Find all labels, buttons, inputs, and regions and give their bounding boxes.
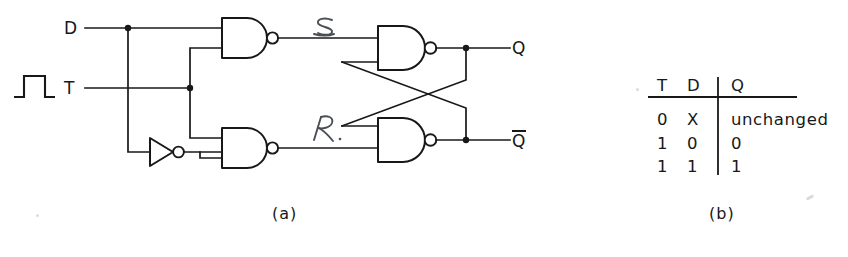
truth-table-header-t: T	[657, 78, 668, 95]
truth-table-cell-q: 1	[731, 159, 742, 176]
truth-table-cell-d: X	[687, 112, 699, 129]
figure-root: D T Q Q T D Q 0 X unchanged 1 0 0 1 1 1 …	[0, 0, 848, 257]
scan-speck	[636, 88, 639, 91]
truth-table-cell-q: 0	[731, 136, 742, 153]
output-label-q: Q	[512, 40, 526, 57]
truth-table-cell-q: unchanged	[731, 112, 829, 129]
truth-table-header-d: D	[687, 78, 700, 95]
input-label-t: T	[64, 80, 75, 97]
output-label-qbar-text: Q	[512, 132, 526, 150]
caption-a: (a)	[272, 206, 297, 222]
truth-table-cell-t: 0	[657, 112, 668, 129]
output-label-qbar: Q	[512, 132, 526, 150]
input-label-d: D	[64, 20, 77, 37]
caption-b: (b)	[709, 206, 735, 222]
truth-table-cell-d: 0	[687, 136, 698, 153]
truth-table-cell-t: 1	[657, 159, 668, 176]
truth-table-header-q: Q	[731, 78, 745, 95]
scan-speck	[36, 214, 39, 217]
truth-table-cell-d: 1	[687, 159, 698, 176]
truth-table-cell-t: 1	[657, 136, 668, 153]
